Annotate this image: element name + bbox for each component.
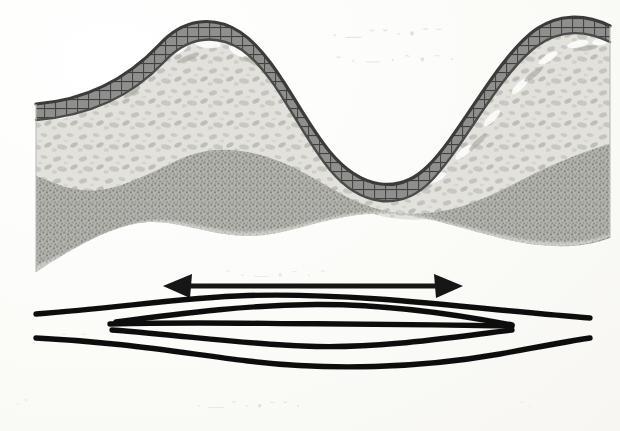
figure-canvas: · — ˜ ˘ · • ˜ ˉ ˘ · — · ˜ • ˉ · · ˜ · • … <box>0 0 620 431</box>
folded-strata-cross-section <box>0 0 620 431</box>
